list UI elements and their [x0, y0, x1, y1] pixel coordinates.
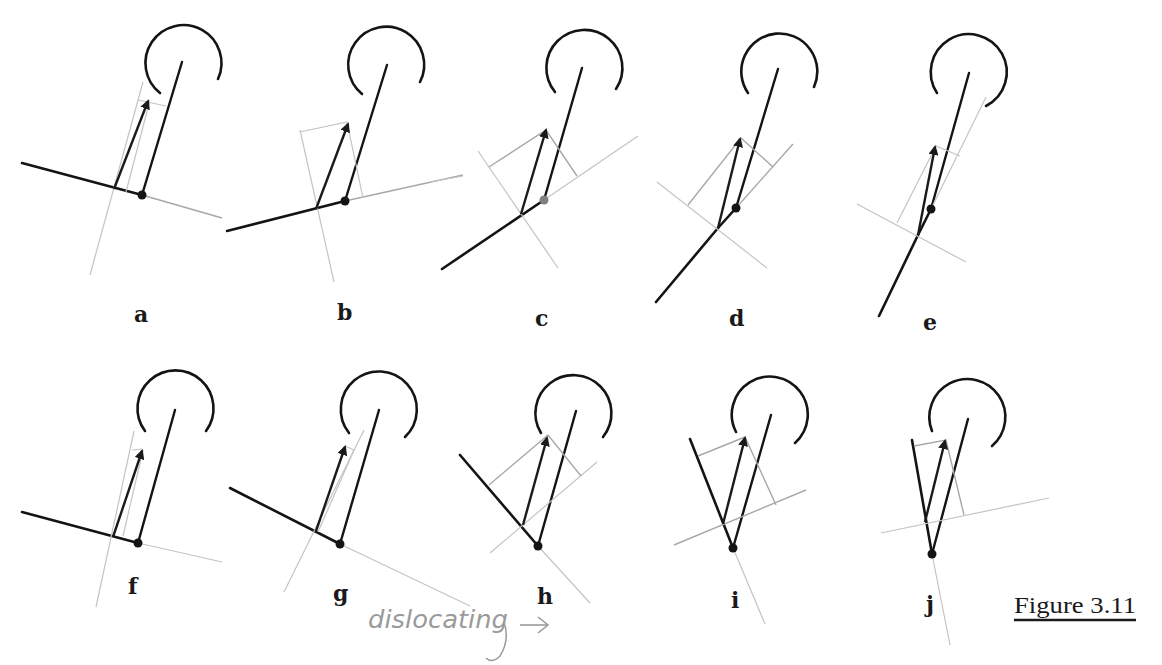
- panel-d: [656, 33, 817, 302]
- figure-title: Figure 3.11: [1014, 592, 1136, 618]
- panel-h: [460, 375, 611, 603]
- segment-line: [227, 201, 345, 231]
- rod-line: [544, 68, 582, 200]
- panel-label-a: a: [134, 301, 148, 327]
- segment-line: [442, 200, 544, 269]
- panel-label-j: j: [924, 591, 934, 617]
- axis-line: [430, 176, 463, 182]
- panel-b: [227, 27, 463, 282]
- panel-e: [857, 34, 1007, 316]
- joint-socket-arc: [732, 377, 808, 443]
- pivot-dot: [341, 197, 350, 206]
- panel-label-d: d: [729, 305, 744, 331]
- construction-line: [881, 498, 1049, 533]
- construction-line: [674, 490, 806, 545]
- force-vector-arrow: [925, 441, 945, 522]
- pivot-dot: [138, 191, 147, 200]
- axis-line: [544, 136, 638, 200]
- handwritten-annotation: dislocating: [368, 606, 548, 661]
- force-vector-arrow: [723, 438, 745, 524]
- construction-line: [478, 151, 558, 268]
- projection-box: [914, 440, 964, 515]
- projection-box: [489, 130, 577, 176]
- rod-line: [538, 411, 576, 546]
- panel-label-e: e: [923, 309, 937, 335]
- pivot-dot: [336, 540, 345, 549]
- figure-caption: Figure 3.11: [1014, 592, 1136, 620]
- panel-label-g: g: [333, 580, 348, 606]
- segment-line: [656, 228, 718, 302]
- annotation-text: dislocating: [368, 606, 508, 634]
- pivot-dot: [534, 542, 543, 551]
- panel-c: [430, 30, 638, 269]
- joint-socket-arc: [535, 375, 611, 437]
- projection-box: [688, 138, 773, 205]
- panel-label-b: b: [337, 299, 352, 325]
- rod-line: [142, 62, 182, 195]
- force-vector-arrow: [114, 101, 148, 189]
- panel-f: [22, 370, 222, 607]
- pivot-dot: [927, 205, 936, 214]
- segment-line: [912, 440, 932, 554]
- force-vector-arrow: [316, 124, 348, 209]
- panel-label-h: h: [537, 583, 553, 609]
- joint-socket-arc: [341, 371, 417, 437]
- axis-line: [138, 543, 222, 562]
- joint-socket-arc: [145, 25, 221, 93]
- segment-line: [460, 455, 538, 546]
- panel-label-f: f: [128, 573, 139, 599]
- pivot-dot: [732, 204, 741, 213]
- axis-line: [932, 554, 950, 645]
- pivot-dot: [928, 550, 937, 559]
- projection-box: [300, 122, 363, 198]
- construction-line: [657, 182, 767, 268]
- projection-box: [138, 100, 166, 106]
- joint-socket-arc: [546, 30, 622, 92]
- force-vector-arrow: [523, 438, 547, 525]
- joint-socket-arc: [929, 379, 1005, 446]
- construction-line: [123, 450, 143, 536]
- axis-line: [142, 195, 222, 218]
- projection-box: [132, 449, 142, 450]
- joint-socket-arc: [348, 27, 424, 94]
- joint-socket-arc: [741, 33, 817, 93]
- joint-socket-arc: [137, 370, 213, 431]
- figure-diagram: a b c d e f g h i j dislocating Figure 3…: [0, 0, 1162, 665]
- joint-socket-arc: [931, 34, 1007, 106]
- panel-i: [674, 377, 808, 624]
- panel-label-c: c: [535, 305, 548, 331]
- rod-line: [932, 419, 968, 554]
- segment-line: [22, 163, 142, 195]
- segment-line: [230, 488, 340, 544]
- segment-line: [879, 235, 918, 316]
- construction-line: [857, 204, 966, 262]
- panel-g: [230, 371, 470, 606]
- force-vector-arrow: [918, 147, 935, 235]
- pivot-dot: [540, 196, 549, 205]
- projection-box: [345, 446, 354, 450]
- rod-line: [345, 65, 387, 201]
- panel-label-i: i: [731, 587, 739, 613]
- construction-line: [90, 82, 143, 275]
- construction-line: [318, 450, 354, 532]
- pivot-dot: [134, 539, 143, 548]
- panel-a: [22, 25, 222, 275]
- segment-line: [690, 439, 733, 548]
- pivot-dot: [729, 544, 738, 553]
- force-vector-arrow: [316, 447, 345, 531]
- axis-line: [340, 544, 470, 606]
- annotation-arrow-icon: [520, 617, 548, 633]
